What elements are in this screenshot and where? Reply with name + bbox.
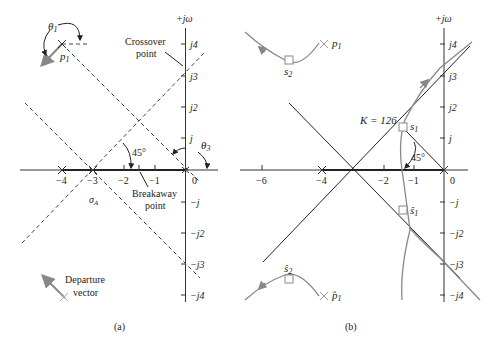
svg-text:−1: −1 xyxy=(149,175,160,186)
svg-text:−j: −j xyxy=(190,197,200,208)
svg-text:−3: −3 xyxy=(87,175,98,186)
x-tick-labels: −4 −3 −2 −1 0 xyxy=(56,175,197,186)
angle-45-label: 45° xyxy=(132,147,146,158)
crossover-label-2: point xyxy=(136,48,157,59)
theta3-arc xyxy=(198,152,207,168)
svg-text:−j3: −j3 xyxy=(449,259,464,270)
breakaway-pointer xyxy=(140,172,148,187)
svg-text:j3: j3 xyxy=(188,71,198,82)
svg-text:−2: −2 xyxy=(378,175,389,186)
s1-label: s1 xyxy=(410,120,418,134)
caption-a: (a) xyxy=(114,321,125,333)
asymptotes-b xyxy=(263,46,470,278)
breakaway-label: Breakaway xyxy=(132,188,177,199)
svg-text:j: j xyxy=(188,133,193,144)
svg-text:0: 0 xyxy=(450,175,455,186)
svg-text:j4: j4 xyxy=(188,39,198,50)
s1-hat-label: ŝ1 xyxy=(410,204,418,218)
p1-label-b: p1 xyxy=(331,37,342,51)
x-tick-labels-b: −6 −4 −2 −1 0 xyxy=(256,175,455,186)
caption-b: (b) xyxy=(345,321,357,333)
theta3-arc-2 xyxy=(173,148,186,154)
panel-a: θ1 p1 θ3 45° −4 −3 −2 −1 0 j j2 j3 j4 xyxy=(20,13,218,333)
gain-label: K = 126 xyxy=(359,114,397,126)
p1-hat-label-b: p̂1 xyxy=(331,289,342,303)
theta1-arc xyxy=(58,23,80,40)
departure-label: Departure xyxy=(65,274,106,285)
damping-line xyxy=(405,130,444,170)
root-locus-figure: θ1 p1 θ3 45° −4 −3 −2 −1 0 j j2 j3 j4 xyxy=(0,0,490,345)
svg-text:−j4: −j4 xyxy=(190,290,205,301)
angle-45-label-b: 45° xyxy=(411,152,425,163)
asymptotes xyxy=(22,44,205,278)
svg-text:j2: j2 xyxy=(188,102,198,113)
s2-label: s2 xyxy=(284,65,292,79)
theta1-arc-2 xyxy=(44,30,50,55)
svg-text:−j2: −j2 xyxy=(449,228,464,239)
crossover-label: Crossover xyxy=(125,36,166,47)
svg-text:−4: −4 xyxy=(56,175,67,186)
p1-label: p1 xyxy=(59,50,70,64)
departure-legend-pole xyxy=(60,293,68,301)
panel-b: 45° p1 p̂1 s2 ŝ2 s1 ŝ1 K = 126 −6 −4 −2 xyxy=(240,13,480,333)
breakaway-label-2: point xyxy=(145,200,166,211)
jw-axis-label: +jω xyxy=(176,13,193,24)
s2-hat-label: ŝ2 xyxy=(284,262,292,276)
svg-text:j2: j2 xyxy=(447,102,457,113)
svg-text:j: j xyxy=(447,133,452,144)
svg-text:j4: j4 xyxy=(447,39,457,50)
svg-text:j3: j3 xyxy=(447,71,457,82)
svg-text:−j3: −j3 xyxy=(190,259,205,270)
svg-text:−j4: −j4 xyxy=(449,290,464,301)
svg-text:0: 0 xyxy=(192,175,197,186)
sigma-a-label: σA xyxy=(89,194,99,207)
crossover-pointer xyxy=(165,52,183,66)
theta3-label: θ3 xyxy=(201,139,210,153)
angle-45-arc xyxy=(123,143,131,168)
theta1-label: θ1 xyxy=(48,20,57,34)
svg-text:−j: −j xyxy=(449,197,459,208)
svg-text:−6: −6 xyxy=(256,175,267,186)
svg-text:−1: −1 xyxy=(408,175,419,186)
jw-axis-label-b: +jω xyxy=(435,13,452,24)
svg-text:−4: −4 xyxy=(316,175,327,186)
svg-text:−j2: −j2 xyxy=(190,228,205,239)
svg-text:−2: −2 xyxy=(118,175,129,186)
departure-label-2: vector xyxy=(73,287,99,298)
